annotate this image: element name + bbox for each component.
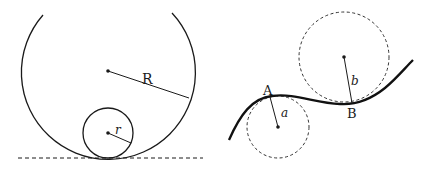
label-r: r	[115, 123, 122, 137]
label-a: a	[281, 106, 288, 120]
curve	[229, 60, 413, 140]
diagram-canvas: R r a b A B	[0, 0, 433, 171]
label-point-B: B	[347, 106, 357, 121]
osculating-circles-diagram: R r a b A B	[0, 0, 433, 171]
right-figure: a b A B	[229, 12, 413, 158]
radius-a-line	[270, 97, 278, 127]
large-circle-arc	[21, 13, 195, 159]
label-R: R	[142, 71, 153, 87]
label-point-A: A	[262, 83, 273, 98]
label-b: b	[351, 74, 359, 88]
left-figure: R r	[18, 13, 203, 159]
